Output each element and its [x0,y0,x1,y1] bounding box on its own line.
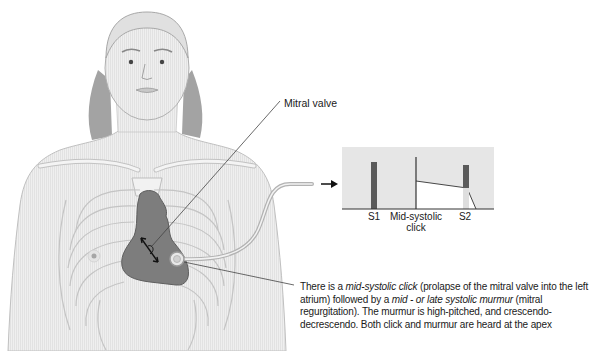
s1-label: S1 [362,211,386,222]
mitral-valve-label: Mitral valve [284,97,337,109]
caption-text-1: There is a [300,281,346,292]
s2-bar [463,165,469,188]
caption-emphasis-murmur: mid - or late systolic murmur [392,294,513,305]
s2-shadow [463,188,469,209]
arrow-right-icon [321,180,338,188]
s2-label: S2 [453,211,477,222]
stethoscope-diaphragm [174,256,181,263]
caption-emphasis-click: mid-systolic click [346,281,418,292]
click-label-line2: click [384,222,448,233]
mid-systolic-click-label: Mid-systolic click [384,211,448,233]
female-torso-illustration [8,12,286,351]
click-label-line1: Mid-systolic [384,211,448,222]
phonocardiogram-panel [342,147,494,209]
right-eye [160,60,164,64]
caption: There is a mid-systolic click (prolapse … [300,281,589,331]
left-eye [129,60,133,64]
s1-bar [371,162,377,209]
left-nipple-center [92,254,97,259]
